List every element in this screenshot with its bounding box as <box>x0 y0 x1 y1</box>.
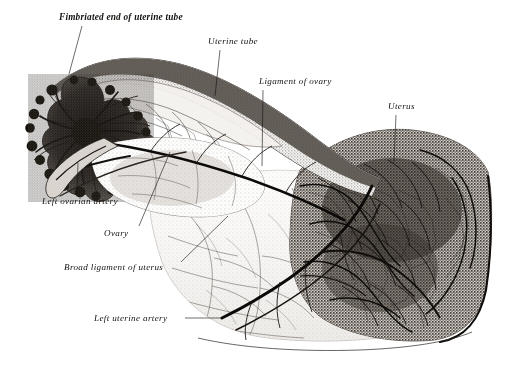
illustration <box>0 0 520 374</box>
label-uterine-tube: Uterine tube <box>208 36 258 46</box>
anatomical-plate: Fimbriated end of uterine tube Uterine t… <box>0 0 520 374</box>
label-left-ovarian-artery: Left ovarian artery <box>42 196 118 206</box>
leader-fimbriated-end <box>69 26 82 74</box>
label-fimbriated-end: Fimbriated end of uterine tube <box>59 12 183 22</box>
label-ovary: Ovary <box>104 228 128 238</box>
label-broad-ligament-of-uterus: Broad ligament of uterus <box>64 262 163 272</box>
label-ligament-of-ovary: Ligament of ovary <box>259 76 332 86</box>
label-uterus: Uterus <box>388 101 415 111</box>
label-left-uterine-artery: Left uterine artery <box>94 313 167 323</box>
